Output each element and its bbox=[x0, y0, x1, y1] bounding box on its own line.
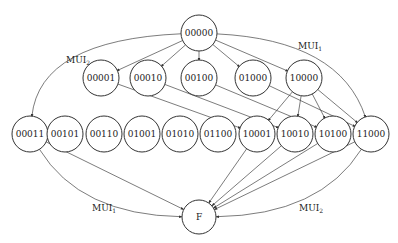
svg-text:10001: 10001 bbox=[243, 129, 272, 139]
node-00100: 00100 bbox=[181, 60, 217, 96]
edge-10000-10010 bbox=[298, 96, 301, 116]
node-00101: 00101 bbox=[47, 116, 83, 152]
edge-10001-F bbox=[209, 149, 246, 202]
node-00011: 00011 bbox=[12, 116, 48, 152]
node-01000: 01000 bbox=[235, 60, 271, 96]
state-graph: 0000000001000100010001000100000001100101… bbox=[0, 0, 398, 243]
node-01100: 01100 bbox=[200, 116, 236, 152]
node-10100: 10100 bbox=[315, 116, 351, 152]
svg-text:10100: 10100 bbox=[319, 129, 348, 139]
node-10001: 10001 bbox=[239, 116, 275, 152]
label-mui1-bottom: MUI1 bbox=[92, 203, 116, 214]
svg-text:01000: 01000 bbox=[239, 73, 268, 83]
nodes: 0000000001000100010001000100000001100101… bbox=[12, 15, 389, 234]
svg-text:00100: 00100 bbox=[185, 73, 214, 83]
node-01010: 01010 bbox=[162, 116, 198, 152]
node-10010: 10010 bbox=[277, 116, 313, 152]
svg-text:11000: 11000 bbox=[357, 129, 386, 139]
edge-10010-F bbox=[213, 146, 282, 205]
svg-text:F: F bbox=[196, 212, 202, 222]
edge-00000-01000 bbox=[213, 45, 239, 67]
node-00010: 00010 bbox=[130, 60, 166, 96]
edge-10100-F bbox=[214, 143, 317, 207]
svg-text:01001: 01001 bbox=[128, 129, 157, 139]
svg-text:00001: 00001 bbox=[87, 73, 116, 83]
svg-text:01010: 01010 bbox=[166, 129, 195, 139]
svg-text:00110: 00110 bbox=[90, 129, 119, 139]
edge-10000-10100 bbox=[312, 94, 324, 118]
svg-text:00101: 00101 bbox=[51, 129, 80, 139]
svg-text:01100: 01100 bbox=[204, 129, 233, 139]
label-mui2-top: MUI2 bbox=[66, 55, 90, 66]
edge-00000-00010 bbox=[161, 45, 185, 66]
node-F: F bbox=[182, 200, 216, 234]
svg-text:00010: 00010 bbox=[134, 73, 163, 83]
svg-text:10000: 10000 bbox=[290, 73, 319, 83]
node-00000: 00000 bbox=[181, 15, 217, 51]
node-10000: 10000 bbox=[286, 60, 322, 96]
svg-text:00011: 00011 bbox=[16, 129, 45, 139]
node-01001: 01001 bbox=[124, 116, 160, 152]
label-mui1-top: MUI1 bbox=[298, 41, 322, 52]
svg-text:00000: 00000 bbox=[185, 28, 214, 38]
edge-10000-10001 bbox=[269, 92, 293, 120]
node-00110: 00110 bbox=[86, 116, 122, 152]
node-11000: 11000 bbox=[353, 116, 389, 152]
label-mui2-bottom: MUI2 bbox=[299, 203, 323, 214]
svg-text:10010: 10010 bbox=[281, 129, 310, 139]
